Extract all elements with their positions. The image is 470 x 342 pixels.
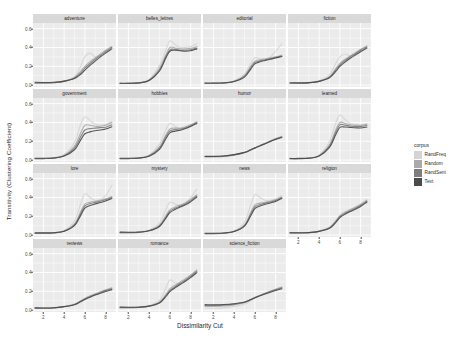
y-tick-mark: [31, 235, 33, 236]
facet-label-text: adventure: [64, 16, 84, 21]
facet-panel-editorial: editorial: [203, 14, 286, 89]
x-tick-label: 2: [297, 240, 300, 245]
x-axis: 2468: [203, 312, 286, 322]
plot-area: [33, 173, 116, 237]
plot-area: [118, 98, 201, 162]
plot-area: [33, 23, 116, 87]
y-tick-mark: [31, 178, 33, 179]
y-axis-title: Transitivity (Clustering Coefficient): [2, 0, 16, 342]
legend: corpus RandFreqRandomRandSentText: [414, 142, 468, 186]
x-tick-label: 8: [104, 315, 107, 320]
x-axis: 2468: [33, 312, 116, 322]
facet-strip-label: religion: [288, 164, 371, 173]
plot-area: [33, 98, 116, 162]
facet-panel-news: news: [203, 164, 286, 239]
facet-panel-mystery: mystery: [118, 164, 201, 239]
legend-item-label: RandSent: [425, 170, 446, 175]
y-tick-mark: [31, 253, 33, 254]
x-tick-label: 4: [318, 240, 321, 245]
facet-panel-hobbies: hobbies: [118, 89, 201, 164]
y-tick-mark: [31, 216, 33, 217]
facet-strip-label: mystery: [118, 164, 201, 173]
legend-item-label: RandFreq: [425, 152, 446, 157]
x-tick-label: 8: [359, 240, 362, 245]
x-tick-mark: [128, 312, 129, 314]
y-tick-mark: [31, 47, 33, 48]
legend-item-label: Random: [425, 161, 443, 166]
plot-area: [288, 173, 371, 237]
plot-area: [288, 98, 371, 162]
x-tick-label: 6: [254, 315, 257, 320]
facet-strip-label: science_fiction: [203, 239, 286, 248]
legend-key-swatch: [414, 160, 422, 168]
x-tick-label: 6: [169, 315, 172, 320]
x-tick-mark: [85, 312, 86, 314]
facet-panel-humor: humor: [203, 89, 286, 164]
y-tick-mark: [31, 310, 33, 311]
facet-panel-fiction: fiction: [288, 14, 371, 89]
legend-key-swatch: [414, 178, 422, 186]
facet-strip-label: fiction: [288, 14, 371, 23]
facet-strip-label: editorial: [203, 14, 286, 23]
x-tick-label: 4: [233, 315, 236, 320]
facet-label-text: hobbies: [151, 91, 167, 96]
facet-strip-label: reviews: [33, 239, 116, 248]
facet-label-text: learned: [322, 91, 337, 96]
legend-item-label: Text: [425, 179, 434, 184]
y-tick-mark: [31, 160, 33, 161]
facet-panel-belles_lettres: belles_lettres: [118, 14, 201, 89]
x-tick-label: 2: [42, 315, 45, 320]
facet-panel-reviews: reviews0.00.20.40.62468: [33, 239, 116, 314]
plot-area: [203, 173, 286, 237]
facet-line-chart: Transitivity (Clustering Coefficient) ad…: [0, 0, 470, 342]
legend-key-swatch: [414, 169, 422, 177]
facet-panel-religion: religion2468: [288, 164, 371, 239]
x-axis: 2468: [118, 312, 201, 322]
x-tick-mark: [319, 237, 320, 239]
x-tick-mark: [170, 312, 171, 314]
facet-strip-label: hobbies: [118, 89, 201, 98]
facet-label-text: government: [62, 91, 86, 96]
y-tick-mark: [31, 291, 33, 292]
legend-item-random: Random: [414, 159, 468, 168]
facet-label-text: humor: [238, 91, 251, 96]
facet-panel-romance: romance2468: [118, 239, 201, 314]
facet-panel-learned: learned: [288, 89, 371, 164]
plot-area: [288, 23, 371, 87]
x-tick-label: 6: [84, 315, 87, 320]
plot-area: [203, 248, 286, 312]
facet-panel-science_fiction: science_fiction2468: [203, 239, 286, 314]
y-tick-mark: [31, 141, 33, 142]
plot-area: [33, 248, 116, 312]
facet-strip-label: learned: [288, 89, 371, 98]
legend-key-swatch: [414, 151, 422, 159]
x-tick-mark: [190, 312, 191, 314]
facet-label-text: romance: [151, 241, 169, 246]
x-tick-mark: [105, 312, 106, 314]
x-axis: 2468: [288, 237, 371, 247]
facet-panel-adventure: adventure0.00.20.40.6: [33, 14, 116, 89]
plot-area: [118, 173, 201, 237]
facet-label-text: science_fiction: [229, 241, 259, 246]
facet-label-text: news: [239, 166, 250, 171]
x-tick-label: 2: [212, 315, 215, 320]
x-tick-mark: [234, 312, 235, 314]
legend-title: corpus: [414, 142, 468, 148]
x-tick-mark: [275, 312, 276, 314]
x-tick-label: 2: [127, 315, 130, 320]
facet-strip-label: news: [203, 164, 286, 173]
facet-panel-government: government0.00.20.40.6: [33, 89, 116, 164]
y-tick-mark: [31, 272, 33, 273]
x-tick-label: 4: [148, 315, 151, 320]
y-tick-mark: [31, 103, 33, 104]
y-tick-mark: [31, 197, 33, 198]
facet-label-text: belles_lettres: [146, 16, 173, 21]
plot-area: [118, 23, 201, 87]
y-tick-mark: [31, 66, 33, 67]
facet-strip-label: romance: [118, 239, 201, 248]
legend-item-randsent: RandSent: [414, 168, 468, 177]
x-tick-label: 4: [63, 315, 66, 320]
x-axis-title: Dissimilarity Cut: [0, 322, 400, 329]
x-tick-mark: [360, 237, 361, 239]
facet-strip-label: adventure: [33, 14, 116, 23]
